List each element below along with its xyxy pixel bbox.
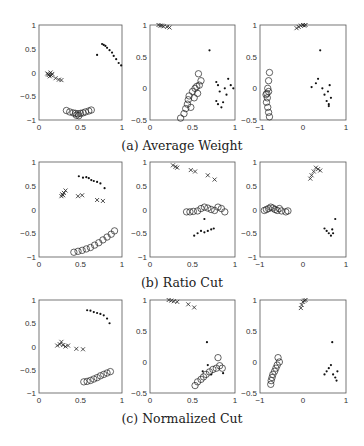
svg-text:0.5: 0.5 — [246, 327, 258, 336]
svg-text:1: 1 — [344, 396, 349, 405]
svg-text:0: 0 — [301, 396, 306, 405]
svg-text:−0.5: −0.5 — [241, 389, 257, 398]
svg-text:1: 1 — [253, 296, 258, 305]
caption-a: (a) Average Weight — [0, 138, 364, 153]
svg-text:0: 0 — [253, 358, 258, 367]
caption-c: (c) Normalized Cut — [0, 411, 364, 426]
caption-b: (b) Ratio Cut — [0, 275, 364, 290]
